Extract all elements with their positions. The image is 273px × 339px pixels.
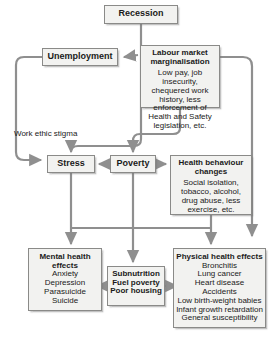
node-subnutrition[interactable]: SubnutritionFuel povertyPoor housing xyxy=(107,266,165,306)
node-health-behaviour-detail: Social isolation, tobacco, alcohol, drug… xyxy=(171,179,251,214)
node-unemployment-label: Unemployment xyxy=(43,52,117,62)
node-labour-market-marginalisation[interactable]: Labour market marginalisation Low pay, j… xyxy=(140,45,220,108)
node-physical-health-effects[interactable]: Physical health effects BronchitisLung c… xyxy=(173,248,266,328)
label-work-ethic-stigma: Work ethic stigma xyxy=(14,130,77,139)
edge-recession-unemployment xyxy=(124,55,138,57)
node-unemployment[interactable]: Unemployment xyxy=(42,48,118,66)
node-health-behaviour-header: Health behaviour changes xyxy=(171,159,251,176)
edge-unemployment-stress xyxy=(16,57,42,160)
node-mental-header: Mental health effects xyxy=(29,253,101,270)
node-subnutrition-items: SubnutritionFuel povertyPoor housing xyxy=(108,270,164,296)
node-mental-health-effects[interactable]: Mental health effects AnxietyDepressionP… xyxy=(28,248,102,311)
node-poverty-label: Poverty xyxy=(111,159,155,169)
node-mental-items: AnxietyDepressionParasuicideSuicide xyxy=(29,270,101,305)
list-item: General susceptibility xyxy=(174,314,265,323)
node-stress[interactable]: Stress xyxy=(47,155,95,173)
edge-recession-stress xyxy=(71,55,141,152)
list-item: Poor housing xyxy=(108,287,164,296)
node-health-behaviour-changes[interactable]: Health behaviour changes Social isolatio… xyxy=(170,155,252,215)
node-stress-label: Stress xyxy=(48,159,94,169)
recession-health-flowchart: Recession Unemployment Labour market mar… xyxy=(0,0,273,339)
node-labour-detail: Low pay, job insecurity, chequered work … xyxy=(141,69,219,131)
node-labour-header: Labour market marginalisation xyxy=(141,49,219,66)
node-recession-label: Recession xyxy=(105,9,177,19)
list-item: Suicide xyxy=(29,297,101,306)
node-physical-items: BronchitisLung cancerHeart diseaseAccide… xyxy=(174,262,265,324)
node-poverty[interactable]: Poverty xyxy=(110,155,156,173)
node-recession[interactable]: Recession xyxy=(104,5,178,24)
